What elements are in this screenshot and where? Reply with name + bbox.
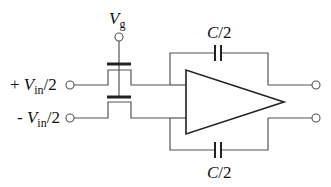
input-plus-label: + Vin/2: [10, 75, 57, 97]
gate-voltage-label: Vg: [109, 9, 125, 31]
circuit-diagram: Vg + Vin/2 - Vin/2 C/2 C/2: [0, 0, 331, 187]
input-minus-label: - Vin/2: [17, 108, 60, 130]
nmos-switch-top: [74, 64, 170, 85]
channel-bottom: [74, 102, 170, 118]
output-terminal-bottom[interactable]: [312, 114, 320, 122]
gate-terminal[interactable]: [115, 33, 123, 41]
nmos-switch-bottom: [74, 97, 170, 118]
differential-amplifier: [186, 70, 284, 134]
output-terminal-top[interactable]: [312, 81, 320, 89]
cap-bottom-right-wire: [222, 118, 268, 150]
cap-top-right-wire: [222, 53, 268, 85]
input-terminal-minus[interactable]: [66, 114, 74, 122]
cap-top-label: C/2: [207, 23, 232, 42]
feedback-capacitor-top: [170, 45, 268, 85]
channel-top: [74, 70, 170, 85]
cap-bottom-label: C/2: [207, 163, 232, 182]
input-terminal-plus[interactable]: [66, 81, 74, 89]
